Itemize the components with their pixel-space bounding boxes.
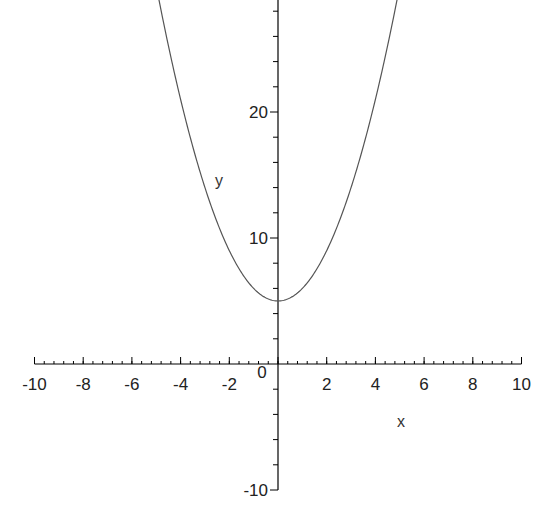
x-tick-label: 10 [512, 375, 531, 394]
x-tick-label: 8 [468, 375, 477, 394]
y-tick-label: -10 [243, 481, 268, 500]
parabola-plot: -10-8-6-4-20246810-101020xy [0, 0, 546, 512]
x-tick-label: 2 [322, 375, 331, 394]
x-axis-label: x [397, 413, 405, 430]
x-tick-label: 4 [371, 375, 380, 394]
x-tick-label: -4 [173, 375, 188, 394]
x-tick-label: -2 [222, 375, 237, 394]
y-tick-label: 20 [249, 103, 268, 122]
y-axis-label: y [215, 172, 223, 189]
x-tick-label: -8 [76, 375, 91, 394]
x-tick-label: -10 [22, 375, 47, 394]
x-tick-label: -6 [124, 375, 139, 394]
x-tick-label: 0 [257, 363, 266, 382]
y-tick-label: 10 [249, 229, 268, 248]
x-tick-label: 6 [419, 375, 428, 394]
